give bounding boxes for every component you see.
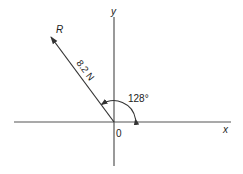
resultant-vector-arrow [51,37,114,122]
x-axis-label: x [222,124,229,135]
angle-label: 128° [128,93,149,104]
vector-diagram: y x 0 R 8.2 N 128° [0,0,243,174]
magnitude-label: 8.2 N [74,58,96,83]
origin-label: 0 [116,128,122,139]
y-axis-label: y [110,6,117,17]
vector-name-label: R [56,24,63,35]
